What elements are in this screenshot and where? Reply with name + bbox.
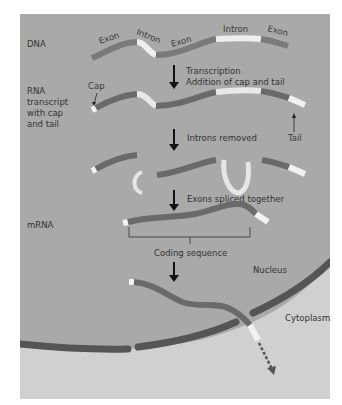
- step-label-addition: Addition of cap and tail: [186, 77, 285, 87]
- stage-label-rna: and tail: [27, 119, 59, 129]
- nucleus-label: Nucleus: [253, 265, 287, 275]
- dna-intron-segment: [216, 38, 261, 39]
- cytoplasm-label: Cytoplasm: [285, 313, 330, 323]
- mrna-processing-diagram: DNA RNA transcript with cap and tail mRN…: [0, 0, 342, 405]
- stage-label-rna: RNA: [27, 86, 45, 96]
- coding-sequence-label: Coding sequence: [154, 248, 227, 258]
- cap: [92, 108, 96, 110]
- step-label-transcription: Transcription: [185, 66, 241, 76]
- dna-label-intron: Intron: [223, 24, 248, 34]
- rna-intron-segment: [216, 90, 261, 92]
- stage-label-dna: DNA: [27, 39, 46, 49]
- stage-label-rna: transcript: [27, 97, 69, 107]
- cap: [123, 222, 128, 223]
- stage-label-mrna: mRNA: [27, 220, 54, 230]
- cap: [92, 169, 96, 171]
- step-label-introns-removed: Introns removed: [187, 133, 257, 143]
- tail-label: Tail: [287, 133, 302, 143]
- stage-label-rna: with cap: [27, 108, 63, 118]
- cap-label: Cap: [88, 81, 105, 91]
